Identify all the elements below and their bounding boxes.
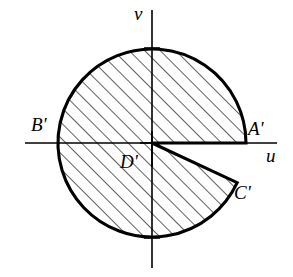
v-axis-label: v (134, 4, 142, 23)
point-label-b-prime: B' (31, 115, 47, 134)
u-axis-label: u (266, 146, 276, 165)
figure-container: v u A' B' C' D' (0, 0, 293, 277)
point-label-a-prime: A' (248, 119, 264, 138)
point-label-d-prime: D' (120, 152, 138, 171)
point-label-c-prime: C' (234, 183, 251, 202)
